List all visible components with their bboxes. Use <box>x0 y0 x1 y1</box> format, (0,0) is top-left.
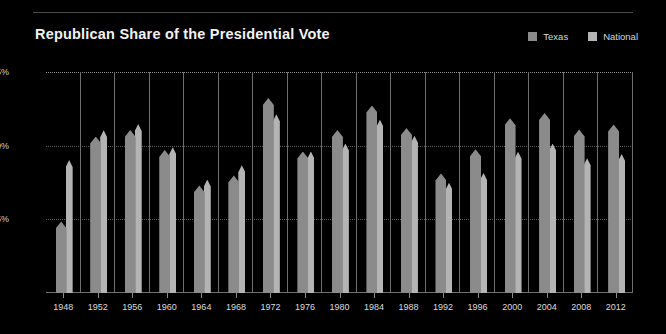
x-axis-label: 1968 <box>226 302 246 312</box>
x-axis-label: 1992 <box>433 302 453 312</box>
bar-group <box>90 72 109 293</box>
bar-group <box>159 72 178 293</box>
bar-national[interactable] <box>515 152 522 293</box>
bar-texas[interactable] <box>332 130 343 293</box>
page-title: Republican Share of the Presidential Vot… <box>35 26 330 42</box>
x-axis-label: 1952 <box>88 302 108 312</box>
x-axis-tick <box>581 293 582 298</box>
bar-national[interactable] <box>618 154 625 293</box>
year-separator <box>632 72 633 293</box>
year-separator <box>80 72 81 293</box>
year-separator <box>528 72 529 293</box>
bar-group <box>366 72 385 293</box>
x-axis-label: 2000 <box>502 302 522 312</box>
x-axis-tick <box>63 293 64 298</box>
bar-group <box>297 72 316 293</box>
bar-group <box>56 72 75 293</box>
bar-national[interactable] <box>204 180 211 293</box>
legend-item-texas[interactable]: Texas <box>528 31 568 42</box>
year-separator <box>356 72 357 293</box>
bar-national[interactable] <box>100 130 107 293</box>
bar-texas[interactable] <box>366 106 377 293</box>
bar-texas[interactable] <box>539 113 550 293</box>
bar-group <box>125 72 144 293</box>
bar-national[interactable] <box>135 124 142 293</box>
bar-texas[interactable] <box>228 175 239 293</box>
bar-texas[interactable] <box>159 150 170 293</box>
bar-group <box>505 72 524 293</box>
bar-group <box>435 72 454 293</box>
x-axis-tick <box>340 293 341 298</box>
bar-national[interactable] <box>480 173 487 293</box>
bar-texas[interactable] <box>608 124 619 293</box>
year-separator <box>218 72 219 293</box>
bar-texas[interactable] <box>90 137 101 293</box>
year-separator <box>425 72 426 293</box>
bar-group <box>539 72 558 293</box>
legend-label: Texas <box>543 31 568 42</box>
x-axis-label: 1956 <box>122 302 142 312</box>
bar-group <box>228 72 247 293</box>
x-axis-tick <box>443 293 444 298</box>
bar-texas[interactable] <box>435 173 446 293</box>
x-axis-tick <box>305 293 306 298</box>
x-axis-tick <box>98 293 99 298</box>
bar-group <box>194 72 213 293</box>
year-separator <box>494 72 495 293</box>
year-separator <box>252 72 253 293</box>
chart-legend: TexasNational <box>528 31 638 42</box>
bar-group <box>574 72 593 293</box>
bar-texas[interactable] <box>125 130 136 293</box>
x-axis-tick <box>478 293 479 298</box>
bar-national[interactable] <box>376 120 383 293</box>
bar-texas[interactable] <box>56 221 67 293</box>
x-axis-label: 1976 <box>295 302 315 312</box>
bar-texas[interactable] <box>263 98 274 293</box>
x-axis-tick <box>201 293 202 298</box>
plot-area: 75%50%25%1948195219561960196419681972197… <box>46 72 633 293</box>
bar-group <box>263 72 282 293</box>
x-axis-label: 1984 <box>364 302 384 312</box>
x-axis-tick <box>512 293 513 298</box>
bar-texas[interactable] <box>297 152 308 293</box>
x-axis-label: 1960 <box>157 302 177 312</box>
bar-national[interactable] <box>238 165 245 293</box>
bar-national[interactable] <box>445 183 452 293</box>
x-axis-tick <box>167 293 168 298</box>
bar-texas[interactable] <box>505 118 516 293</box>
year-separator <box>149 72 150 293</box>
legend-item-national[interactable]: National <box>588 31 638 42</box>
bar-group <box>401 72 420 293</box>
bar-texas[interactable] <box>470 149 481 293</box>
year-separator <box>114 72 115 293</box>
y-axis-label: 75% <box>0 67 9 77</box>
bar-national[interactable] <box>169 147 176 293</box>
x-axis-tick <box>616 293 617 298</box>
bar-national[interactable] <box>584 158 591 293</box>
bar-national[interactable] <box>66 160 73 293</box>
header-divider <box>33 12 633 13</box>
year-separator <box>183 72 184 293</box>
x-axis-tick <box>236 293 237 298</box>
x-axis-label: 2012 <box>606 302 626 312</box>
x-axis-label: 1964 <box>191 302 211 312</box>
bar-national[interactable] <box>411 136 418 293</box>
bar-texas[interactable] <box>194 185 205 293</box>
x-axis-tick <box>547 293 548 298</box>
bar-group <box>470 72 489 293</box>
x-axis-tick <box>409 293 410 298</box>
x-axis-label: 2004 <box>537 302 557 312</box>
year-separator <box>597 72 598 293</box>
chart-card: Republican Share of the Presidential Vot… <box>0 0 666 334</box>
legend-swatch-icon <box>528 32 537 41</box>
x-axis-label: 1988 <box>399 302 419 312</box>
bar-national[interactable] <box>307 152 314 293</box>
x-axis-tick <box>132 293 133 298</box>
bar-texas[interactable] <box>401 128 412 293</box>
bar-texas[interactable] <box>574 129 585 293</box>
bar-national[interactable] <box>342 144 349 293</box>
bar-group <box>608 72 627 293</box>
x-axis-label: 1948 <box>53 302 73 312</box>
bar-national[interactable] <box>273 114 280 293</box>
bar-national[interactable] <box>549 144 556 293</box>
